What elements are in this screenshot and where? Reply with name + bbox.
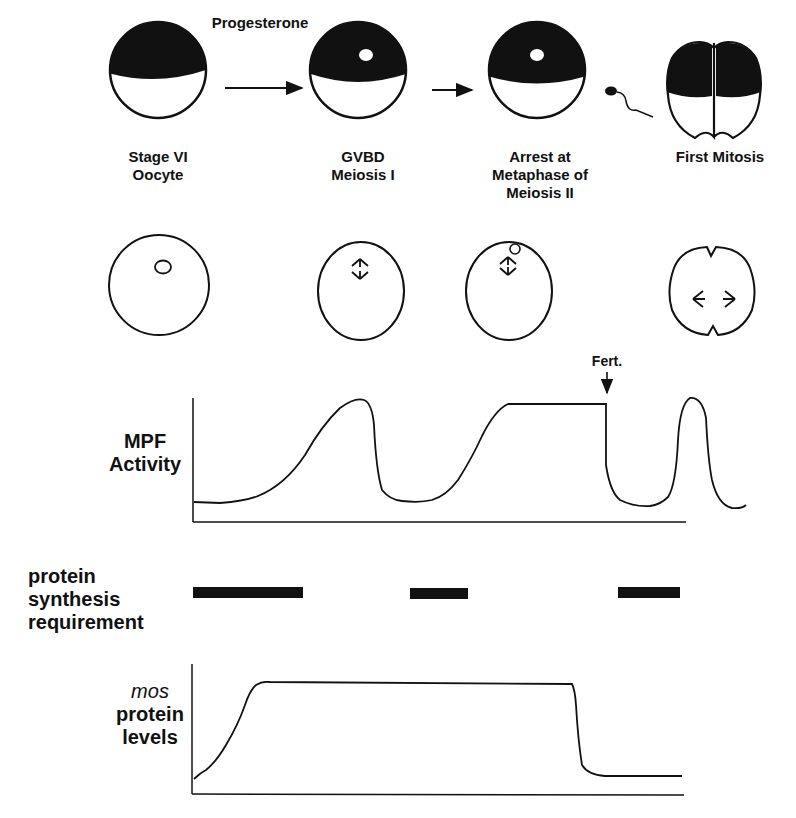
stage-label-line: Oocyte [98,166,218,184]
fert-label: Fert. [582,352,632,370]
stage-label-stage-vi: Stage VI Oocyte [98,148,218,184]
stage-label-line: Meiosis I [308,166,418,184]
stage-label-first-mitosis: First Mitosis [660,148,780,166]
oocyte-gvbd-icon [305,15,412,118]
row-label-line: requirement [16,611,176,634]
mos-protein-label: mos protein levels [105,680,195,749]
mos-protein-chart [192,664,684,795]
stage-label-gvbd: GVBD Meiosis I [308,148,418,184]
stage-label-line: First Mitosis [660,148,780,166]
stage-label-line: GVBD [308,148,418,166]
stage-label-line: Arrest at [470,148,610,166]
row-label-line: MPF [90,430,200,453]
embryo-first-mitosis-icon [667,42,761,138]
row-label-line: protein [16,565,176,588]
row-label-line: protein [105,703,195,726]
stage-label-metaphase-ii: Arrest at Metaphase of Meiosis II [470,148,610,202]
row-label-line: Activity [90,453,200,476]
nucleus-stage-vi-icon [109,235,209,335]
row-label-line: synthesis [16,588,176,611]
spindle-meiosis-i-icon [318,242,404,340]
sperm-icon [605,87,653,118]
stage-label-line: Stage VI [98,148,218,166]
spindle-meiosis-ii-icon [466,242,552,340]
mpf-activity-chart [193,398,746,522]
protein-synthesis-bars [193,587,680,599]
egg-metaphase-ii-icon [484,15,590,118]
dividing-cell-icon [669,247,754,335]
row-label-line: levels [105,726,195,749]
oocyte-stage-vi-icon [105,15,212,118]
protein-synthesis-label: protein synthesis requirement [16,565,176,634]
mpf-activity-label: MPF Activity [90,430,200,476]
row-label-line: mos [105,680,195,703]
mos-protein-curve [194,682,682,779]
stage-label-line: Meiosis II [470,184,610,202]
progesterone-label: Progesterone [200,14,320,32]
stage-label-line: Metaphase of [470,166,610,184]
